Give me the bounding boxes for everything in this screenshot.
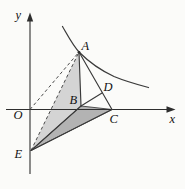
label-x-axis: x <box>169 112 176 126</box>
geometry-figure: y x O A B C D E <box>0 0 185 189</box>
label-origin: O <box>14 108 23 122</box>
label-point-D: D <box>103 80 113 94</box>
label-point-C: C <box>110 112 119 126</box>
label-point-E: E <box>14 147 23 161</box>
y-axis-arrowhead-icon <box>27 13 33 22</box>
label-y-axis: y <box>14 8 22 22</box>
label-point-A: A <box>81 39 90 53</box>
diagram-canvas: y x O A B C D E <box>0 0 185 189</box>
point-A-dot <box>78 51 81 54</box>
segment-BD <box>81 93 102 106</box>
label-point-B: B <box>70 93 78 107</box>
